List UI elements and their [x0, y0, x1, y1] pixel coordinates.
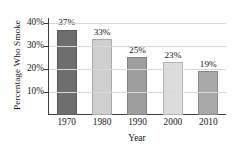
bar-2000[interactable]: [163, 62, 183, 115]
y-tick-mark: [44, 92, 48, 93]
bar-value-label-1980: 33%: [94, 28, 111, 37]
plot-area: 37%33%25%23%19%: [48, 18, 226, 115]
x-tick-label-1990: 1990: [120, 118, 155, 127]
y-tick-mark: [44, 69, 48, 70]
bar-slot: 33%: [84, 18, 119, 115]
x-tick-label-2010: 2010: [191, 118, 226, 127]
bar-1970[interactable]: [57, 30, 77, 115]
bar-value-label-1990: 25%: [129, 46, 146, 55]
bars-layer: 37%33%25%23%19%: [49, 18, 226, 115]
gridline-40: [49, 23, 226, 24]
bar-1980[interactable]: [92, 39, 112, 115]
y-tick-mark: [44, 46, 48, 47]
bar-value-label-2000: 23%: [164, 51, 181, 60]
y-tick-label: 30%: [16, 41, 44, 50]
x-tick-label-1980: 1980: [84, 118, 119, 127]
y-tick-mark: [44, 23, 48, 24]
y-tick-label: 20%: [16, 64, 44, 73]
bar-2010[interactable]: [198, 71, 218, 115]
gridline-20: [49, 69, 226, 70]
bar-chart: Percentage Who Smoke 10%20%30%40% 37%33%…: [0, 0, 236, 154]
y-tick-label: 40%: [16, 18, 44, 27]
x-tick-label-2000: 2000: [155, 118, 190, 127]
gridline-30: [49, 46, 226, 47]
gridline-10: [49, 92, 226, 93]
x-axis-tick-labels: 19701980199020002010: [49, 118, 226, 132]
y-tick-label: 10%: [16, 87, 44, 96]
bar-1990[interactable]: [127, 57, 147, 115]
x-tick-label-1970: 1970: [49, 118, 84, 127]
bar-slot: 25%: [120, 18, 155, 115]
x-axis-title: Year: [48, 133, 226, 143]
bar-slot: 23%: [155, 18, 190, 115]
bar-slot: 19%: [191, 18, 226, 115]
bar-value-label-2010: 19%: [200, 60, 217, 69]
y-axis-tick-labels: 10%20%30%40%: [16, 0, 44, 154]
bar-slot: 37%: [49, 18, 84, 115]
